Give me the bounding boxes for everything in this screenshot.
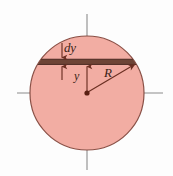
circle-differential-strip-figure: dy y R	[0, 0, 173, 176]
y-label: y	[74, 70, 79, 82]
figure-canvas	[0, 0, 173, 176]
differential-strip	[24, 59, 150, 64]
radius-label: R	[104, 66, 112, 79]
differential-strip-group	[24, 59, 150, 64]
center-point-dot	[84, 90, 89, 95]
dy-label: dy	[64, 41, 76, 54]
